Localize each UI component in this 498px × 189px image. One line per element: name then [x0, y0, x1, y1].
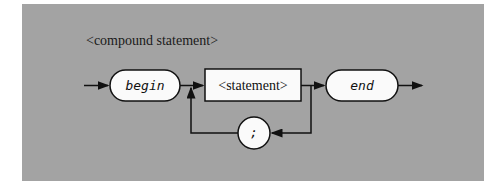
node-semicolon-label: ; — [250, 125, 258, 140]
node-end: end — [326, 70, 398, 101]
node-statement-label: <statement> — [218, 78, 288, 93]
node-semicolon: ; — [238, 117, 270, 149]
node-statement: <statement> — [205, 69, 301, 101]
syntax-diagram: begin <statement> end ; — [0, 0, 498, 189]
node-begin-label: begin — [125, 78, 164, 93]
node-end-label: end — [350, 78, 374, 93]
node-begin: begin — [110, 70, 180, 101]
